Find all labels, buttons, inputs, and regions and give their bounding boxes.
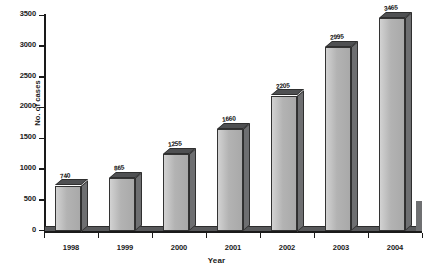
y-tick: 2000	[39, 107, 44, 108]
bar-side-face	[135, 172, 142, 231]
y-tick: 1500	[39, 138, 44, 139]
y-tick-label: 0	[32, 225, 36, 234]
x-tick-label: 2003	[314, 243, 368, 252]
y-tick-label: 1000	[20, 163, 36, 172]
x-tick	[98, 233, 99, 238]
y-tick-label: 2500	[20, 71, 36, 80]
bar	[271, 89, 304, 232]
x-tick-label: 2001	[206, 243, 260, 252]
y-tick-label: 3500	[20, 9, 36, 18]
x-tick	[260, 233, 261, 238]
y-tick: 500	[39, 199, 44, 200]
plot-area: 0500100015002000250030003500 19981999200…	[44, 14, 422, 233]
y-tick-label: 2000	[20, 101, 36, 110]
bar-side-face	[351, 41, 358, 231]
x-tick	[422, 233, 423, 238]
bar-value-label: 740	[60, 171, 71, 179]
bar-front-face	[217, 129, 243, 231]
x-tick-label: 2004	[368, 243, 422, 252]
x-axis-title: Year	[0, 256, 433, 265]
x-tick-label: 2000	[152, 243, 206, 252]
bar-value-label: 2205	[276, 81, 290, 89]
bar-side-face	[243, 123, 250, 231]
bar-value-label: 865	[114, 164, 125, 172]
y-tick: 3500	[39, 15, 44, 16]
y-tick-label: 3000	[20, 40, 36, 49]
chart-right-wall	[416, 201, 422, 231]
y-tick-label: 500	[24, 194, 36, 203]
bar-chart: No. of cases 050010001500200025003000350…	[0, 0, 433, 277]
y-tick-label: 1500	[20, 132, 36, 141]
bar	[325, 40, 358, 231]
bar-side-face	[297, 90, 304, 232]
y-tick: 0	[39, 230, 44, 231]
bar-side-face	[189, 148, 196, 231]
bar-front-face	[55, 186, 81, 232]
bar-front-face	[379, 18, 405, 231]
y-tick: 2500	[39, 76, 44, 77]
x-tick	[206, 233, 207, 238]
y-tick: 1000	[39, 168, 44, 169]
x-tick	[44, 233, 45, 238]
bar	[217, 122, 250, 231]
x-tick-label: 1998	[44, 243, 98, 252]
x-tick	[314, 233, 315, 238]
y-axis-line	[44, 14, 46, 233]
bar	[163, 147, 196, 231]
bar-front-face	[109, 178, 135, 231]
y-tick: 3000	[39, 45, 44, 46]
bar-side-face	[81, 180, 88, 231]
x-tick	[152, 233, 153, 238]
x-axis-line	[44, 231, 422, 233]
bar	[379, 11, 412, 231]
bar-side-face	[405, 12, 412, 231]
x-tick-label: 2002	[260, 243, 314, 252]
bar	[109, 171, 142, 231]
bar	[55, 179, 88, 232]
bar-front-face	[325, 47, 351, 231]
bar-front-face	[271, 96, 297, 232]
bar-front-face	[163, 154, 189, 231]
x-tick-label: 1999	[98, 243, 152, 252]
x-tick	[368, 233, 369, 238]
